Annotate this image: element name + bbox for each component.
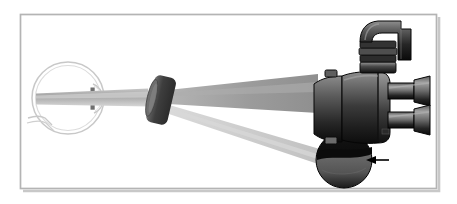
microscope-body <box>314 70 390 144</box>
figure-root <box>0 0 457 204</box>
ribbed-collar <box>359 41 397 73</box>
body-top-tab <box>325 70 337 77</box>
microscope-rear-barrel <box>314 76 342 142</box>
housing-notch <box>382 129 389 134</box>
optical-diagram <box>0 0 457 204</box>
body-lower-tab <box>325 137 337 144</box>
